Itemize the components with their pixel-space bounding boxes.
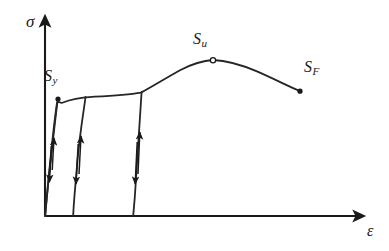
yield-point-label: Sy [44,67,57,86]
fracture-point-marker [297,89,302,94]
ultimate-strength-label-base: S [193,30,201,47]
fracture-point-label: SF [304,58,319,77]
yield-point-marker [55,96,60,101]
stress-axis-label: σ [26,12,34,32]
unload-line-1 [45,101,57,216]
yield-point-label-subscript: y [53,74,58,86]
fracture-point-label-subscript: F [313,65,320,77]
stress-strain-figure: σ ε Sy Su SF [0,0,389,251]
yield-point-label-base: S [44,67,52,84]
ultimate-strength-label: Su [193,30,207,49]
strain-axis-label: ε [367,222,373,240]
unload-line-1-arrow-down [49,146,51,182]
fracture-point-label-base: S [304,58,312,75]
unload-line-2 [73,97,85,216]
unload-line-3 [133,92,141,216]
stress-strain-curve [45,60,300,216]
ultimate-strength-label-subscript: u [202,37,208,49]
ultimate-strength-point-marker [210,58,215,63]
